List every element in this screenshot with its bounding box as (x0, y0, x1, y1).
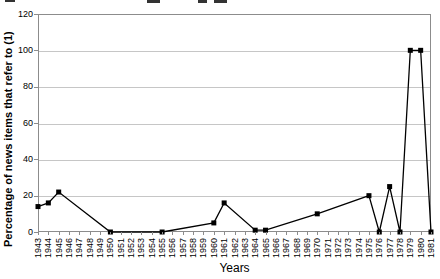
x-tick-mark (193, 232, 194, 235)
data-point-marker (46, 200, 51, 205)
y-tick-label: 60 (6, 118, 33, 129)
x-tick-label: 1943 (34, 238, 43, 258)
x-tick-label: 1960 (210, 238, 219, 258)
x-tick-mark (131, 232, 132, 235)
x-tick-label: 1955 (158, 238, 167, 258)
x-tick-mark (203, 232, 204, 235)
x-tick-mark (307, 232, 308, 235)
data-point-marker (222, 200, 227, 205)
x-tick-mark (110, 232, 111, 235)
data-point-marker (387, 184, 392, 189)
x-tick-label: 1962 (231, 238, 240, 258)
data-point-marker (36, 204, 41, 209)
x-axis-title: Years (38, 261, 431, 275)
x-tick-label: 1978 (396, 238, 405, 258)
x-tick-label: 1964 (251, 238, 260, 258)
x-tick-mark (100, 232, 101, 235)
x-tick-mark (59, 232, 60, 235)
x-tick-mark (224, 232, 225, 235)
x-tick-label: 1972 (334, 238, 343, 258)
x-tick-mark (359, 232, 360, 235)
line-series (38, 14, 431, 232)
x-tick-label: 1951 (117, 238, 126, 258)
y-tick-label: 80 (6, 81, 33, 92)
x-tick-mark (48, 232, 49, 235)
x-tick-mark (152, 232, 153, 235)
x-tick-label: 1981 (427, 238, 436, 258)
x-tick-label: 1971 (324, 238, 333, 258)
x-tick-mark (410, 232, 411, 235)
x-tick-mark (121, 232, 122, 235)
y-tick-mark (34, 196, 38, 197)
x-tick-mark (235, 232, 236, 235)
y-tick-label: 20 (6, 190, 33, 201)
x-tick-label: 1966 (272, 238, 281, 258)
cropped-title-fragment (147, 0, 160, 3)
x-tick-label: 1952 (127, 238, 136, 258)
x-tick-mark (162, 232, 163, 235)
y-tick-label: 100 (6, 45, 33, 56)
x-tick-label: 1944 (44, 238, 53, 258)
data-point-marker (366, 193, 371, 198)
x-tick-mark (369, 232, 370, 235)
x-tick-label: 1959 (199, 238, 208, 258)
data-point-marker (211, 220, 216, 225)
x-tick-label: 1980 (417, 238, 426, 258)
x-tick-label: 1979 (406, 238, 415, 258)
x-tick-mark (79, 232, 80, 235)
data-point-marker (56, 190, 61, 195)
x-tick-mark (214, 232, 215, 235)
x-tick-mark (400, 232, 401, 235)
x-tick-mark (141, 232, 142, 235)
y-tick-mark (34, 87, 38, 88)
x-tick-label: 1958 (189, 238, 198, 258)
x-tick-label: 1968 (293, 238, 302, 258)
x-tick-label: 1965 (262, 238, 271, 258)
x-tick-mark (328, 232, 329, 235)
x-tick-mark (276, 232, 277, 235)
x-tick-label: 1956 (168, 238, 177, 258)
y-tick-label: 40 (6, 154, 33, 165)
x-tick-label: 1976 (375, 238, 384, 258)
line-chart: Percentage of news items that refer to (… (0, 0, 440, 279)
x-tick-label: 1973 (344, 238, 353, 258)
x-tick-mark (348, 232, 349, 235)
x-tick-mark (38, 232, 39, 235)
x-tick-label: 1969 (303, 238, 312, 258)
x-tick-label: 1974 (355, 238, 364, 258)
x-tick-mark (317, 232, 318, 235)
y-tick-mark (34, 50, 38, 51)
x-tick-label: 1963 (241, 238, 250, 258)
x-tick-mark (266, 232, 267, 235)
x-tick-mark (431, 232, 432, 235)
x-tick-mark (379, 232, 380, 235)
y-tick-mark (34, 159, 38, 160)
x-tick-mark (172, 232, 173, 235)
data-point-marker (418, 48, 423, 53)
x-tick-mark (69, 232, 70, 235)
y-tick-label: 120 (6, 9, 33, 20)
x-tick-label: 1970 (313, 238, 322, 258)
x-tick-label: 1957 (179, 238, 188, 258)
x-tick-mark (183, 232, 184, 235)
x-tick-label: 1954 (148, 238, 157, 258)
x-tick-mark (90, 232, 91, 235)
x-tick-label: 1961 (220, 238, 229, 258)
cropped-title-fragment (5, 0, 15, 2)
x-tick-mark (338, 232, 339, 235)
x-tick-label: 1950 (106, 238, 115, 258)
x-tick-label: 1949 (96, 238, 105, 258)
y-tick-mark (34, 14, 38, 15)
y-tick-mark (34, 123, 38, 124)
x-tick-label: 1946 (65, 238, 74, 258)
data-point-marker (315, 211, 320, 216)
x-tick-mark (245, 232, 246, 235)
x-tick-mark (255, 232, 256, 235)
y-axis-title: Percentage of news items that refer to (… (2, 31, 14, 247)
x-tick-mark (421, 232, 422, 235)
x-tick-mark (390, 232, 391, 235)
x-tick-label: 1953 (137, 238, 146, 258)
x-tick-label: 1975 (365, 238, 374, 258)
cropped-title-fragment (198, 0, 207, 3)
cropped-title-fragment (214, 0, 227, 3)
